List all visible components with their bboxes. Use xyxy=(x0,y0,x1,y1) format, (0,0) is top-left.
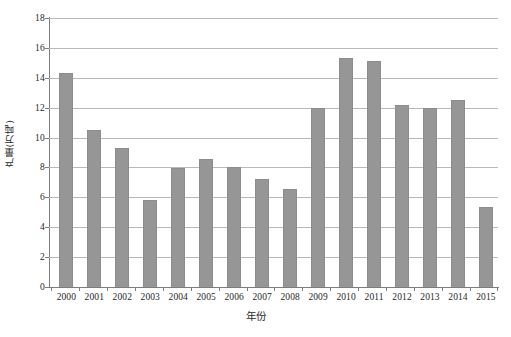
x-axis-tick-mark xyxy=(219,287,220,291)
bar xyxy=(451,100,465,287)
y-axis-tick-label: 18 xyxy=(15,13,45,23)
bar xyxy=(227,167,241,287)
bar xyxy=(479,207,493,287)
bar xyxy=(87,130,101,287)
x-axis-tick-mark xyxy=(274,287,275,291)
y-axis-tick-label: 16 xyxy=(15,43,45,53)
plot-area xyxy=(49,18,498,287)
bar xyxy=(171,168,185,287)
bar xyxy=(143,200,157,287)
y-axis-tick-label: 6 xyxy=(15,192,45,202)
y-axis-tick-label: 2 xyxy=(15,252,45,262)
gridline xyxy=(49,48,498,49)
x-axis-tick-mark xyxy=(79,287,80,291)
bar xyxy=(283,189,297,287)
gridline xyxy=(49,78,498,79)
x-axis-tick-mark xyxy=(302,287,303,291)
x-axis-tick-label: 2015 xyxy=(466,292,506,303)
x-axis-tick-mark xyxy=(497,287,498,291)
x-axis-tick-mark xyxy=(386,287,387,291)
bar xyxy=(59,73,73,287)
bar xyxy=(423,108,437,287)
bar xyxy=(395,105,409,287)
gridline xyxy=(49,18,498,19)
x-axis-tick-mark xyxy=(163,287,164,291)
bar xyxy=(367,61,381,287)
y-axis-tick-label: 10 xyxy=(15,133,45,143)
x-axis-tick-mark xyxy=(442,287,443,291)
x-axis-tick-mark xyxy=(470,287,471,291)
y-axis-tick-label: 12 xyxy=(15,103,45,113)
x-axis-tick-mark xyxy=(247,287,248,291)
x-axis-tick-mark xyxy=(358,287,359,291)
x-axis-tick-mark xyxy=(191,287,192,291)
y-axis-tick-label: 8 xyxy=(15,162,45,172)
x-axis-tick-mark xyxy=(107,287,108,291)
x-axis-tick-mark xyxy=(330,287,331,291)
bar xyxy=(311,108,325,287)
y-axis-tick-label: 4 xyxy=(15,222,45,232)
bar xyxy=(339,58,353,287)
y-axis-tick-label: 14 xyxy=(15,73,45,83)
y-axis-title: 产量(万吨) xyxy=(4,120,22,167)
bar xyxy=(199,159,213,287)
x-axis-tick-mark xyxy=(414,287,415,291)
x-axis-tick-mark xyxy=(135,287,136,291)
x-axis-title: 年份 xyxy=(0,308,511,323)
x-axis-tick-mark xyxy=(51,287,52,291)
bar xyxy=(115,148,129,287)
bar xyxy=(255,179,269,287)
y-axis-tick-label: 0 xyxy=(15,282,45,292)
bar-chart: 产量(万吨) 024681012141618 20002001200220032… xyxy=(0,0,511,337)
